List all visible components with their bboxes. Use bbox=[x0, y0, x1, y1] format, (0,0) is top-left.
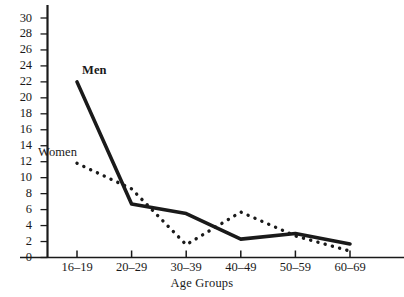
x-axis-tick-label: 30–39 bbox=[156, 261, 216, 274]
series-line-men bbox=[77, 82, 350, 244]
y-axis-tick-label: 8 bbox=[10, 187, 32, 199]
y-axis-tick-label: 10 bbox=[10, 171, 32, 183]
x-axis-tick-label: 16–19 bbox=[47, 261, 107, 274]
line-chart: 024681012141618202224262830 16–1920–2930… bbox=[0, 0, 404, 297]
x-axis-tick-label: 20–29 bbox=[102, 261, 162, 274]
y-axis-tick-label: 0 bbox=[10, 251, 32, 263]
series-annotation-men: Men bbox=[82, 63, 107, 78]
y-axis-tick-label: 2 bbox=[10, 235, 32, 247]
x-axis-title: Age Groups bbox=[0, 276, 404, 291]
y-axis-tick-label: 6 bbox=[10, 203, 32, 215]
x-axis-ticks bbox=[77, 251, 350, 258]
y-axis-tick-label: 28 bbox=[10, 27, 32, 39]
y-axis-tick-label: 14 bbox=[10, 139, 32, 151]
x-axis-tick-label: 40–49 bbox=[211, 261, 271, 274]
axes bbox=[20, 5, 404, 258]
x-axis-tick-label: 50–59 bbox=[265, 261, 325, 274]
y-axis-tick-label: 24 bbox=[10, 59, 32, 71]
y-axis-tick-label: 18 bbox=[10, 107, 32, 119]
y-axis-tick-label: 4 bbox=[10, 219, 32, 231]
y-axis-tick-label: 12 bbox=[10, 155, 32, 167]
y-axis-tick-label: 20 bbox=[10, 91, 32, 103]
x-axis-tick-label: 60–69 bbox=[320, 261, 380, 274]
y-axis-tick-label: 26 bbox=[10, 43, 32, 55]
y-axis-tick-label: 30 bbox=[10, 12, 32, 24]
series-annotation-women: Women bbox=[38, 145, 77, 160]
y-axis-tick-label: 16 bbox=[10, 123, 32, 135]
y-axis-tick-label: 22 bbox=[10, 75, 32, 87]
